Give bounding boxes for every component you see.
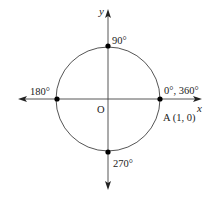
point-270-label: 270° xyxy=(113,158,133,169)
unit-circle-diagram: y x O 90° 180° 0°, 360° A (1, 0) 270° xyxy=(0,0,214,203)
point-0-360-dot xyxy=(157,96,162,101)
origin-label: O xyxy=(97,104,105,115)
x-axis-label: x xyxy=(196,102,202,114)
y-axis-label: y xyxy=(98,5,104,17)
point-90-dot xyxy=(105,43,110,48)
point-90-label: 90° xyxy=(112,35,127,46)
point-a-label: A (1, 0) xyxy=(163,112,196,124)
point-270-dot xyxy=(105,149,110,154)
point-180-dot xyxy=(54,96,59,101)
point-180-label: 180° xyxy=(30,86,50,97)
point-0-360-label: 0°, 360° xyxy=(164,85,199,96)
